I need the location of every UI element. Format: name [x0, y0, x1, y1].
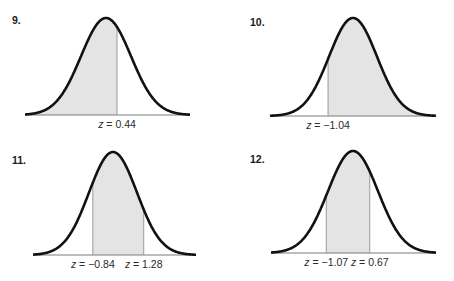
problem-number: 10. [250, 16, 265, 28]
panel-12: 12.z = −1.07z = 0.67 [250, 151, 436, 268]
problem-number: 9. [12, 14, 21, 26]
z-value-label: z = −0.84 [70, 258, 115, 270]
shaded-area [25, 18, 117, 115]
z-value-label: z = 0.44 [97, 118, 136, 130]
panel-11: 11.z = −0.84z = 1.28 [12, 152, 196, 270]
panel-9: 9.z = 0.44 [12, 14, 190, 130]
problem-number: 12. [250, 153, 265, 165]
problem-number: 11. [12, 154, 26, 166]
shaded-area [326, 151, 370, 253]
normal-curve-exercises: 9.z = 0.4410.z = −1.0411.z = −0.84z = 1.… [0, 0, 454, 281]
z-value-label: z = 0.67 [350, 256, 389, 268]
z-value-label: z = −1.04 [305, 119, 350, 131]
z-value-label: z = −1.07 [303, 256, 348, 268]
panel-10: 10.z = −1.04 [250, 16, 436, 131]
z-value-label: z = 1.28 [124, 258, 163, 270]
